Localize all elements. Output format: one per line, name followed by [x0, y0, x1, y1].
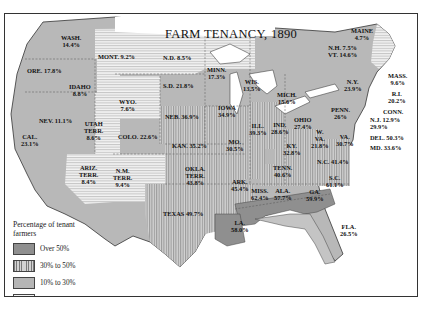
state-label-nc: N.C. 41.4% — [317, 158, 349, 165]
state-label-colo: COLO. 22.6% — [118, 133, 158, 140]
state-label-ri: R.I. 20.2% — [388, 90, 406, 104]
vertical-lines-swatch-icon — [13, 260, 35, 272]
state-label-wis: WIS. 13.5% — [243, 78, 261, 92]
state-label-nm: N.M. TERR. 9.4% — [113, 167, 132, 188]
state-label-conn: CONN. — [383, 108, 403, 115]
state-label-la: LA. 58.0% — [231, 219, 249, 233]
state-label-ark: ARK. 45.4% — [231, 178, 249, 192]
state-label-va: VA. 30.7% — [336, 133, 354, 147]
map-frame: FARM TENANCY, 1890 WASH. 14.4% ORE. 17.8… — [4, 13, 418, 297]
state-label-idaho: IDAHO 8.8% — [69, 83, 91, 97]
state-label-del: DEL. 50.3% — [370, 134, 404, 141]
state-label-miss: MISS. 62.4% — [251, 187, 269, 201]
state-label-sd: S.D. 21.8% — [163, 82, 194, 89]
state-label-tenn: TENN. 40.6% — [273, 164, 292, 178]
dark-solid-swatch-icon — [13, 243, 35, 255]
legend-item-10-to-30: 10% to 30% — [13, 276, 93, 289]
horizontal-lines-swatch-icon — [13, 294, 35, 298]
state-label-ariz: ARIZ. TERR. 8.4% — [79, 164, 98, 185]
state-label-ala: ALA. 57.7% — [274, 187, 292, 201]
state-label-minn: MINN. 17.3% — [207, 66, 226, 80]
state-label-maine: MAINE 4.7% — [351, 27, 373, 41]
state-label-neb: NEB. 36.9% — [165, 113, 199, 120]
state-label-texas: TEXAS 49.7% — [163, 210, 203, 217]
state-label-nj: N.J. 12.9% 29.9% — [370, 116, 400, 130]
state-label-mass: MASS. 9.6% — [388, 72, 407, 86]
state-label-ore: ORE. 17.8% — [27, 67, 62, 74]
state-label-cal: CAL. 23.1% — [21, 133, 39, 147]
state-label-iowa: IOWA 34.9% — [218, 104, 236, 118]
legend-item-over-50: Over 50% — [13, 242, 93, 255]
legend-title: Percentage of tenant farmers — [13, 220, 93, 238]
state-label-okla: OKLA. TERR. 43.8% — [185, 165, 205, 186]
map-legend: Percentage of tenant farmers Over 50% 30… — [13, 220, 93, 297]
state-label-penn: PENN. 26% — [331, 106, 350, 120]
state-label-mich: MICH. 15.6% — [277, 91, 297, 105]
map-title: FARM TENANCY, 1890 — [165, 27, 297, 42]
state-label-wash: WASH. 14.4% — [61, 34, 81, 48]
state-label-ky: KY. 32.8% — [283, 142, 301, 156]
state-label-ind: IND. 28.6% — [271, 121, 289, 135]
legend-item-under-10: Under 10% — [13, 293, 93, 297]
state-label-ny: N.Y. 23.9% — [344, 78, 362, 92]
legend-item-30-to-50: 30% to 50% — [13, 259, 93, 272]
state-label-sc: S.C. 61.1% — [326, 174, 344, 188]
state-label-nev: NEV. 11.1% — [39, 117, 72, 124]
state-label-ohio: OHIO 27.4% — [294, 116, 312, 130]
state-label-utah: UTAH TERR. 8.6% — [84, 120, 103, 141]
state-label-nd: N.D. 8.5% — [163, 54, 191, 61]
state-label-nh-vt: N.H. 7.5% VT. 14.6% — [328, 44, 357, 58]
state-label-mont: MONT. 9.2% — [98, 53, 135, 60]
state-label-mo: MO. 30.5% — [226, 138, 244, 152]
state-label-fla: FLA. 26.5% — [340, 223, 358, 237]
state-label-ga: GA. 59.9% — [306, 188, 324, 202]
state-label-ill: ILL. 39.3% — [249, 122, 267, 136]
state-label-wyo: WYO. 7.6% — [119, 98, 137, 112]
state-label-md: MD. 33.6% — [370, 144, 401, 151]
state-label-kan: KAN. 35.2% — [172, 142, 207, 149]
light-solid-swatch-icon — [13, 277, 35, 289]
state-label-wva: W. VA. 21.8% — [311, 128, 329, 149]
